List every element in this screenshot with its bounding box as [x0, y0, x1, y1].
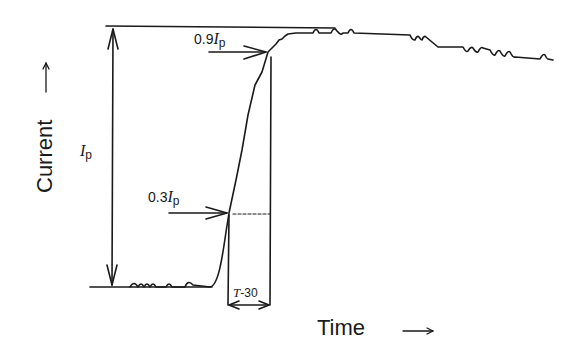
current-waveform	[130, 29, 553, 287]
peak-amplitude-arrow	[112, 29, 113, 285]
waveform-diagram	[0, 0, 585, 360]
x-axis-label: Time	[317, 315, 365, 341]
peak-reference-line	[106, 26, 335, 28]
t30-interval-label: T-30	[233, 285, 258, 301]
t30-end-marker	[270, 57, 271, 305]
y-axis-label: Current	[32, 120, 58, 193]
peak-amplitude-label: Ip	[80, 142, 92, 162]
level-90-label: 0.9Ip	[194, 30, 225, 50]
level-30-label: 0.3Ip	[148, 188, 179, 208]
t30-start-marker	[228, 215, 229, 305]
